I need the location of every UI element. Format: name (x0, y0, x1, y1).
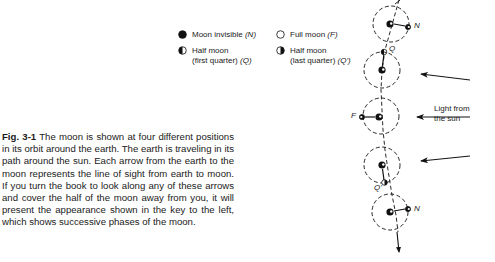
orbit-position-3 (359, 98, 399, 134)
path-direction-arrow (397, 232, 399, 252)
orbit-position-1 (373, 6, 411, 42)
sunlight-label-line1: Light from (434, 104, 470, 113)
earth-icon (378, 66, 385, 73)
sunlight-arrow-upper (421, 74, 470, 80)
label-f: F (351, 111, 356, 120)
orbit-position-5 (372, 194, 411, 230)
earth-icon (386, 208, 393, 215)
orbit-position-2 (364, 52, 400, 88)
label-q-top: Q (389, 44, 395, 53)
earth-icon (375, 113, 382, 120)
last-quarter-moon-marker (382, 180, 388, 186)
label-n-bottom: N (414, 204, 420, 213)
orbit-position-4 (364, 147, 400, 183)
earth-icon (386, 20, 393, 27)
sunlight-label-line2: the sun (434, 114, 460, 123)
sunlight-label: Light from the sun (434, 104, 470, 124)
label-q-prime: Q' (374, 183, 382, 192)
earth-icon (378, 161, 385, 168)
moon-orbit-diagram (0, 0, 495, 262)
sunlight-arrow-lower (421, 156, 470, 161)
label-n-top: N (414, 21, 420, 30)
